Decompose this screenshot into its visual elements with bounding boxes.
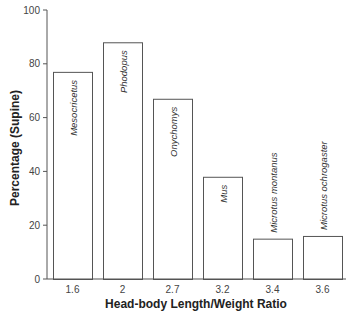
y-tick-label: 100 (23, 5, 40, 16)
bar-label: Mus (218, 185, 229, 203)
y-tick-label: 0 (34, 274, 40, 285)
bar (254, 239, 293, 279)
bar (304, 236, 343, 279)
x-tick-label: 3.6 (316, 284, 330, 295)
bar-chart: 020406080100 MesocricetusPhodopusOnychom… (0, 0, 356, 314)
bar-group: Onychomys (154, 99, 193, 279)
x-tick-label: 2 (120, 284, 126, 295)
x-axis-ticks: 1.622.73.23.43.6 (66, 284, 330, 295)
x-tick-label: 2.7 (166, 284, 180, 295)
y-tick-label: 60 (29, 112, 41, 123)
bar-group: Mus (204, 177, 243, 279)
bar-label: Onychomys (168, 107, 179, 157)
y-tick-label: 80 (29, 58, 41, 69)
bar-group: Microtus ochrogaster (304, 140, 343, 279)
x-tick-label: 1.6 (66, 284, 80, 295)
y-axis-title: Percentage (Supine) (8, 90, 22, 206)
y-axis-ticks: 020406080100 (23, 5, 47, 285)
y-tick-label: 20 (29, 220, 41, 231)
bar-label: Microtus ochrogaster (318, 140, 329, 230)
x-tick-label: 3.4 (266, 284, 280, 295)
bar-group: Phodopus (104, 43, 143, 280)
bars: MesocricetusPhodopusOnychomysMusMicrotus… (54, 43, 343, 280)
bar-group: Microtus montanus (254, 152, 293, 279)
bar-group: Mesocricetus (54, 72, 93, 279)
x-tick-label: 3.2 (216, 284, 230, 295)
bar-label: Phodopus (118, 50, 129, 93)
bar-label: Microtus montanus (268, 152, 279, 233)
x-axis-title: Head-body Length/Weight Ratio (105, 297, 287, 311)
y-tick-label: 40 (29, 166, 41, 177)
bar-label: Mesocricetus (68, 80, 79, 136)
